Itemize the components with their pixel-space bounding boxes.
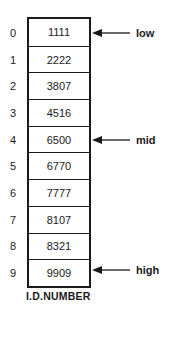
array-box: 1111 2222 3807 4516 6500 6770 7777 8107 …: [27, 17, 91, 288]
index-label: 3: [8, 107, 18, 119]
left-arrow-icon: [92, 135, 130, 145]
cell-value: 6770: [47, 160, 71, 172]
index-label: 7: [8, 214, 18, 226]
array-caption: I.D.NUMBER: [26, 290, 90, 302]
array-cell-7: 8107: [29, 206, 89, 233]
pointer-label: mid: [136, 134, 156, 146]
index-label: 1: [8, 54, 18, 66]
index-label: 4: [8, 134, 18, 146]
pointer-low: low: [92, 27, 154, 39]
index-label: 6: [8, 187, 18, 199]
pointer-mid: mid: [92, 134, 156, 146]
cell-value: 8321: [47, 240, 71, 252]
left-arrow-icon: [92, 265, 130, 275]
index-label: 8: [8, 240, 18, 252]
cell-value: 2222: [47, 54, 71, 66]
cell-value: 9909: [47, 267, 71, 279]
index-label: 5: [8, 160, 18, 172]
left-arrow-icon: [92, 28, 130, 38]
cell-value: 3807: [47, 80, 71, 92]
cell-value: 4516: [47, 107, 71, 119]
index-label: 2: [8, 80, 18, 92]
cell-value: 1111: [48, 26, 70, 38]
index-label: 9: [8, 267, 18, 279]
cell-value: 7777: [47, 187, 71, 199]
array-cell-1: 2222: [29, 46, 89, 73]
cell-value: 6500: [47, 134, 71, 146]
array-cell-8: 8321: [29, 233, 89, 260]
array-cell-4: 6500: [29, 126, 89, 153]
array-cell-2: 3807: [29, 72, 89, 99]
array-cell-3: 4516: [29, 99, 89, 126]
pointer-label: low: [136, 27, 154, 39]
array-cell-0: 1111: [29, 19, 89, 46]
pointer-label: high: [136, 264, 159, 276]
pointer-high: high: [92, 264, 159, 276]
array-cell-9: 9909: [29, 259, 89, 286]
index-label: 0: [8, 27, 18, 39]
array-cell-5: 6770: [29, 152, 89, 179]
array-cell-6: 7777: [29, 179, 89, 206]
cell-value: 8107: [47, 214, 71, 226]
